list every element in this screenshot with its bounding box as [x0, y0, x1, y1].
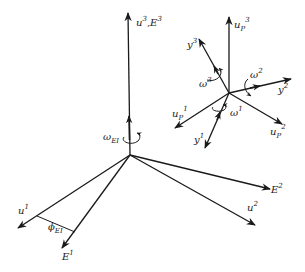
axis-E1 [62, 155, 130, 248]
label-u3-E3: u3,E3 [136, 15, 162, 28]
omega2-vector [250, 86, 260, 88]
omega3-vector [214, 66, 218, 74]
axis-E2 [130, 155, 270, 189]
label-omega-EI: ωEI [103, 131, 119, 145]
label-y1: y1 [193, 132, 204, 145]
omega-EI-vector [129, 116, 130, 140]
label-omega2: ω2 [250, 67, 263, 80]
label-y3: y3 [186, 37, 198, 50]
reference-frames-diagram: u3,E3 ωEI u1 ϕEI E1 E2 u2 uP3 uP1 uP2 y1… [0, 0, 305, 272]
label-phi-EI: ϕEI [48, 221, 63, 235]
inertial-frame [18, 13, 270, 248]
label-E2: E2 [270, 182, 283, 195]
label-uP1: uP1 [172, 105, 188, 122]
axis-u2 [130, 155, 255, 225]
label-uP3: uP3 [234, 16, 250, 33]
label-y2: y2 [277, 82, 289, 95]
label-uP2: uP2 [270, 123, 286, 140]
label-omega1: ω1 [230, 105, 243, 118]
label-u2: u2 [247, 200, 258, 213]
label-u1: u1 [18, 203, 29, 216]
label-E1: E1 [61, 249, 74, 262]
label-omega3: ω3 [199, 76, 212, 89]
omega-EI-curl-icon [123, 133, 140, 143]
axis-u1 [18, 155, 130, 228]
